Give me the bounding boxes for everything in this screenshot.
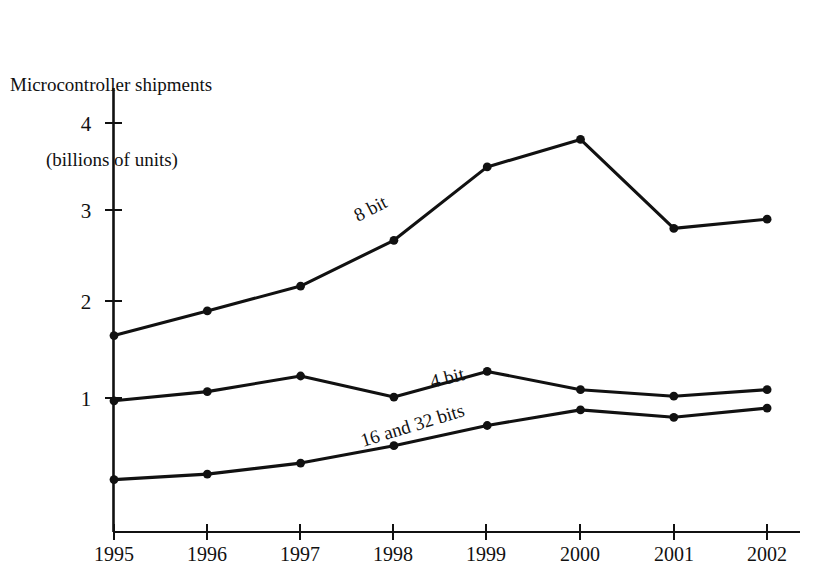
y-tick-label-4: 4	[81, 112, 92, 136]
y-axis-tick-labels: 4 3 2 1	[81, 112, 92, 411]
x-tick-label-1997: 1997	[280, 543, 320, 565]
x-axis-tick-labels: 1995 1996 1997 1998 1999 2000 2001 2002	[94, 543, 787, 565]
data-point	[390, 236, 399, 245]
series-label-4-bit: 4 bit	[428, 363, 467, 392]
data-point	[203, 387, 212, 396]
data-point	[669, 413, 678, 422]
data-point	[483, 367, 492, 376]
data-point	[483, 163, 492, 172]
data-point	[576, 385, 585, 394]
data-point	[763, 404, 772, 413]
data-point	[203, 307, 212, 316]
data-point	[110, 331, 119, 340]
series-label-8-bit: 8 bit	[350, 191, 391, 226]
y-tick-label-1: 1	[81, 387, 92, 411]
data-point	[296, 282, 305, 291]
x-tick-label-2002: 2002	[747, 543, 787, 565]
chart-figure: Microcontroller shipments (billions of u…	[0, 0, 818, 582]
data-point	[203, 470, 212, 479]
y-tick-label-2: 2	[81, 290, 92, 314]
data-point	[110, 396, 119, 405]
data-point	[576, 135, 585, 144]
data-point	[576, 406, 585, 415]
x-tick-label-2001: 2001	[654, 543, 694, 565]
series-line	[114, 139, 767, 335]
data-point	[110, 475, 119, 484]
data-point	[390, 393, 399, 402]
x-tick-label-2000: 2000	[560, 543, 600, 565]
data-point	[763, 215, 772, 224]
x-tick-label-1999: 1999	[466, 543, 506, 565]
data-point	[763, 385, 772, 394]
y-tick-label-3: 3	[81, 199, 92, 223]
chart-canvas: 4 3 2 1 1995 1996 1997 1998 1999 2000 20…	[0, 0, 818, 582]
data-point	[296, 459, 305, 468]
series-8-bit	[110, 135, 772, 340]
x-tick-label-1995: 1995	[94, 543, 134, 565]
data-point	[296, 372, 305, 381]
x-tick-label-1996: 1996	[187, 543, 227, 565]
x-tick-label-1998: 1998	[373, 543, 413, 565]
data-point	[669, 392, 678, 401]
data-point	[483, 421, 492, 430]
data-series-layer	[110, 135, 772, 484]
data-point	[669, 224, 678, 233]
